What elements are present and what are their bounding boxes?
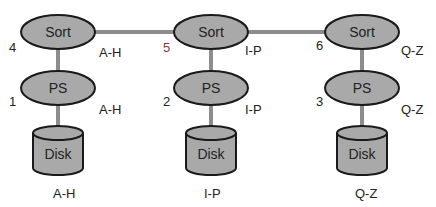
svg-text:PS: PS: [49, 80, 68, 96]
parallel-sort-diagram: Sort Sort Sort PS PS PS Disk Disk Disk 4…: [0, 0, 436, 207]
ps-1-number: 1: [9, 94, 16, 109]
ps-2-range: I-P: [245, 102, 262, 117]
ps-1-range: A-H: [99, 102, 121, 117]
disk-node-1: Disk: [33, 126, 83, 175]
sort-1-range: A-H: [99, 45, 121, 60]
sort-1-number: 4: [9, 40, 16, 55]
sort-2-number: 5: [163, 40, 170, 55]
sort-2-range: I-P: [245, 43, 262, 58]
sort-node-1: Sort: [21, 15, 95, 49]
svg-text:PS: PS: [353, 80, 372, 96]
sort-node-2: Sort: [174, 15, 248, 49]
disk-3-range: Q-Z: [355, 186, 377, 201]
disk-node-3: Disk: [337, 126, 387, 175]
sort-3-range: Q-Z: [401, 43, 423, 58]
svg-text:Sort: Sort: [45, 24, 71, 40]
svg-text:Disk: Disk: [348, 146, 376, 162]
sort-3-number: 6: [316, 38, 323, 53]
disk-node-2: Disk: [186, 126, 236, 175]
ps-node-2: PS: [174, 71, 248, 105]
ps-3-number: 3: [316, 94, 323, 109]
svg-text:Sort: Sort: [349, 24, 375, 40]
ps-node-1: PS: [21, 71, 95, 105]
svg-text:Disk: Disk: [197, 146, 225, 162]
svg-text:PS: PS: [202, 80, 221, 96]
ps-3-range: Q-Z: [401, 102, 423, 117]
svg-text:Sort: Sort: [198, 24, 224, 40]
disk-2-range: I-P: [204, 186, 221, 201]
svg-text:Disk: Disk: [44, 146, 72, 162]
sort-node-3: Sort: [325, 15, 399, 49]
ps-2-number: 2: [163, 94, 170, 109]
disk-1-range: A-H: [53, 186, 75, 201]
ps-node-3: PS: [325, 71, 399, 105]
